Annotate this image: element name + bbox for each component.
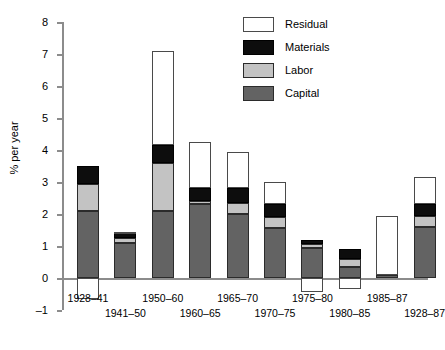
y-tick-label: –1 xyxy=(36,304,48,316)
bar-segment-capital xyxy=(227,214,249,278)
y-tick-label: 3 xyxy=(42,176,48,188)
bar-1928–87 xyxy=(414,22,436,310)
bar-segment-materials xyxy=(189,188,211,201)
bar-1941–50 xyxy=(114,22,136,310)
y-tick: 2 xyxy=(57,214,62,216)
y-tick-label: 6 xyxy=(42,80,48,92)
bar-segment-labor xyxy=(152,163,174,211)
bar-segment-capital xyxy=(339,267,361,278)
y-tick-label: 4 xyxy=(42,144,48,156)
legend-swatch-capital-icon xyxy=(243,86,274,101)
y-tick: 3 xyxy=(57,182,62,184)
y-tick: 5 xyxy=(57,118,62,120)
bar-segment-capital xyxy=(114,243,136,278)
bar-segment-materials xyxy=(152,145,174,163)
bar-segment-residual xyxy=(339,278,361,289)
bar-segment-capital xyxy=(376,275,398,278)
y-tick: 1 xyxy=(57,246,62,248)
x-tick-label: 1980–85 xyxy=(329,307,370,319)
bar-segment-materials xyxy=(77,166,99,184)
legend-label-residual: Residual xyxy=(285,16,328,33)
x-tick-label: 1985–87 xyxy=(367,292,408,304)
y-tick: 4 xyxy=(57,150,62,152)
bar-1928–41 xyxy=(77,22,99,310)
legend-label-capital: Capital xyxy=(285,85,319,102)
bar-segment-materials xyxy=(114,233,136,238)
x-tick-label: 1950–60 xyxy=(142,292,183,304)
y-tick: 8 xyxy=(57,22,62,24)
y-tick: 0 xyxy=(57,278,62,280)
legend-label-materials: Materials xyxy=(285,39,330,56)
bar-1950–60 xyxy=(152,22,174,310)
y-tick-label: 7 xyxy=(42,48,48,60)
bar-segment-residual xyxy=(376,216,398,275)
legend-swatch-labor-icon xyxy=(243,63,274,78)
bar-segment-residual xyxy=(152,51,174,145)
bar-segment-labor xyxy=(227,203,249,214)
cut-off-title xyxy=(0,0,435,9)
bar-segment-labor xyxy=(264,217,286,228)
bar-segment-capital xyxy=(189,204,211,278)
y-tick-label: 2 xyxy=(42,208,48,220)
bar-segment-capital xyxy=(414,227,436,278)
legend-swatch-residual-icon xyxy=(243,17,274,32)
bar-segment-capital xyxy=(152,211,174,278)
bar-segment-labor xyxy=(339,259,361,267)
y-tick-label: 0 xyxy=(42,272,48,284)
x-tick-label: 1941–50 xyxy=(105,307,146,319)
y-tick-label: 8 xyxy=(42,16,48,28)
bar-segment-capital xyxy=(264,228,286,278)
y-tick-label: 5 xyxy=(42,112,48,124)
y-axis-line xyxy=(62,22,64,310)
bar-segment-residual xyxy=(227,152,249,189)
bar-segment-capital xyxy=(301,248,323,278)
x-tick-label: 1928–41 xyxy=(68,292,109,304)
bar-1980–85 xyxy=(339,22,361,310)
y-tick: –1 xyxy=(57,310,62,312)
legend-swatch-materials-icon xyxy=(243,40,274,55)
y-tick: 7 xyxy=(57,54,62,56)
x-tick-label: 1960–65 xyxy=(180,307,221,319)
y-axis-label: % per year xyxy=(8,121,20,174)
x-tick-label: 1975–80 xyxy=(292,292,333,304)
bar-segment-materials xyxy=(301,240,323,245)
bar-segment-residual xyxy=(114,232,136,234)
bar-segment-materials xyxy=(264,204,286,217)
bar-segment-labor xyxy=(189,201,211,204)
y-tick-label: 1 xyxy=(42,240,48,252)
legend-label-labor: Labor xyxy=(285,62,313,79)
x-tick-label: 1928–87 xyxy=(404,307,445,319)
bar-segment-materials xyxy=(339,249,361,259)
bar-segment-residual xyxy=(189,142,211,188)
bar-segment-residual xyxy=(414,177,436,204)
x-tick-label: 1970–75 xyxy=(255,307,296,319)
bar-1960–65 xyxy=(189,22,211,310)
bar-segment-materials xyxy=(414,204,436,215)
bar-1985–87 xyxy=(376,22,398,310)
x-tick-label: 1965–70 xyxy=(217,292,258,304)
bar-segment-labor xyxy=(114,238,136,243)
bar-segment-residual xyxy=(264,182,286,204)
bar-segment-materials xyxy=(227,188,249,202)
bar-segment-residual xyxy=(301,278,323,292)
bar-segment-labor xyxy=(301,244,323,247)
bar-segment-capital xyxy=(77,211,99,278)
bar-segment-labor xyxy=(414,216,436,227)
y-tick: 6 xyxy=(57,86,62,88)
bar-segment-labor xyxy=(77,184,99,211)
